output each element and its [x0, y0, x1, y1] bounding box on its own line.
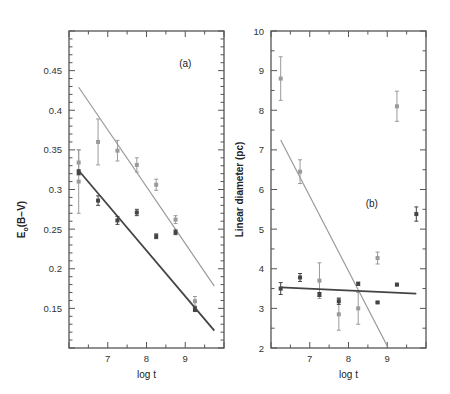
x-tick-label: 8 — [346, 353, 351, 364]
data-point — [356, 282, 360, 286]
y-tick-label: 0.15 — [44, 303, 63, 314]
data-point — [154, 234, 158, 238]
data-point — [317, 293, 321, 297]
y-tick-label: 0.3 — [49, 184, 62, 195]
x-axis-label: log t — [137, 369, 156, 380]
data-point — [279, 287, 283, 291]
data-point — [337, 312, 341, 316]
y-axis-label: Linear diameter (pc) — [234, 142, 245, 238]
data-point — [96, 199, 100, 203]
y-tick-label: 4 — [259, 263, 264, 274]
figure: 7890.150.20.250.30.350.40.45log tEo(B−V)… — [0, 0, 450, 394]
data-point — [376, 300, 380, 304]
data-point — [135, 163, 139, 167]
data-point — [77, 170, 81, 174]
data-point — [115, 218, 119, 222]
data-point — [174, 230, 178, 234]
data-point — [193, 299, 197, 303]
y-axis-label: Eo(B−V) — [16, 201, 29, 238]
data-point — [96, 140, 100, 144]
y-tick-label: 2 — [259, 343, 264, 354]
x-tick-label: 7 — [105, 353, 110, 364]
fit-line — [281, 287, 417, 293]
data-point — [298, 275, 302, 279]
y-tick-label: 0.45 — [44, 65, 63, 76]
y-tick-label: 3 — [259, 303, 264, 314]
y-tick-label: 10 — [253, 26, 264, 37]
panel-b-diameter-vs-age: 7892345678910log tLinear diameter (pc)(b… — [234, 26, 426, 381]
data-point — [376, 256, 380, 260]
y-tick-label: 7 — [259, 144, 264, 155]
y-tick-label: 0.4 — [49, 105, 62, 116]
data-point — [356, 306, 360, 310]
data-point — [193, 307, 197, 311]
x-tick-label: 9 — [183, 353, 188, 364]
y-tick-label: 0.2 — [49, 263, 62, 274]
x-axis-label: log t — [339, 369, 358, 380]
data-point — [174, 218, 178, 222]
x-tick-label: 9 — [385, 353, 390, 364]
data-series — [279, 207, 419, 304]
data-point — [395, 104, 399, 108]
panel-a-extinction-vs-age: 7890.150.20.250.30.350.40.45log tEo(B−V)… — [16, 31, 224, 380]
y-tick-label: 0.35 — [44, 144, 63, 155]
data-point — [77, 180, 81, 184]
plot-frame — [69, 31, 224, 348]
y-tick-label: 8 — [259, 105, 264, 116]
data-series — [77, 87, 215, 306]
data-point — [298, 170, 302, 174]
data-point — [337, 299, 341, 303]
fit-line — [79, 87, 215, 286]
panel-label: (a) — [179, 58, 191, 69]
y-tick-label: 5 — [259, 224, 264, 235]
data-series — [77, 170, 215, 331]
panel-label: (b) — [366, 198, 378, 209]
x-tick-label: 8 — [144, 353, 149, 364]
data-point — [115, 149, 119, 153]
data-point — [414, 212, 418, 216]
y-tick-label: 9 — [259, 65, 264, 76]
data-point — [317, 279, 321, 283]
fit-line — [281, 140, 388, 346]
data-point — [135, 210, 139, 214]
plot-frame — [271, 31, 426, 348]
x-tick-label: 7 — [307, 353, 312, 364]
data-point — [154, 183, 158, 187]
y-tick-label: 6 — [259, 184, 264, 195]
data-point — [395, 283, 399, 287]
data-point — [279, 77, 283, 81]
y-tick-label: 0.25 — [44, 224, 63, 235]
